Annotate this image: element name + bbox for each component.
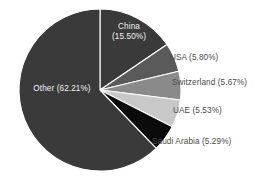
slice-label-uae: UAE (5.53%) <box>173 106 222 116</box>
slice-label-china: China (15.50%) <box>103 22 155 41</box>
slice-label-switzerland: Switzerland (5.67%) <box>172 78 247 88</box>
slice-label-saudi-arabia: Saudi Arabia (5.29%) <box>152 137 231 147</box>
slice-label-china-name: China <box>103 22 155 32</box>
pie-chart-figure: China (15.50%) Other (62.21%) USA (5.80%… <box>0 0 270 176</box>
slice-label-other: Other (62.21%) <box>22 84 102 94</box>
slice-label-china-percent: (15.50%) <box>103 32 155 42</box>
slice-label-usa: USA (5.80%) <box>170 53 218 63</box>
